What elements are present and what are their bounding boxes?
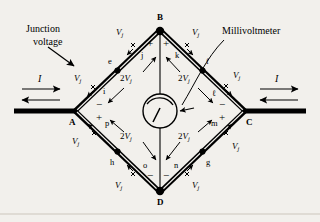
meter-dial [143, 94, 177, 128]
millivoltmeter[interactable] [143, 94, 177, 128]
current-indicator-right [260, 89, 298, 100]
junction-voltage-leader [48, 47, 74, 66]
leader-2vj-to-i [108, 88, 124, 103]
circuit-diagram [0, 0, 320, 222]
leader-2vj-lower-right [166, 142, 180, 160]
leader-2vj-to-m [198, 120, 212, 132]
leader-2vj-upper-left [143, 57, 156, 72]
leader-2vj-to-l [198, 88, 213, 103]
millivoltmeter-leader-arrow [180, 108, 194, 111]
leader-2vj-to-p [110, 120, 124, 132]
current-indicator-left [22, 89, 60, 100]
leader-2vj-lower-left [143, 142, 156, 160]
leader-2vj-upper-right [166, 57, 180, 72]
